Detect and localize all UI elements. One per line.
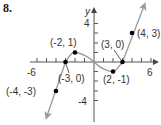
label-neg4-neg3: (-4, -3)	[6, 86, 36, 97]
graph-curve	[47, 6, 144, 116]
x-tick-6: 6	[147, 67, 153, 78]
y-tick-4: 4	[84, 18, 90, 29]
label-neg3-0: (-3, 0)	[58, 73, 85, 84]
point-neg2-1	[73, 50, 78, 55]
y-axis	[94, 10, 98, 122]
point-3-0	[120, 60, 125, 65]
y-axis-label: y	[84, 6, 91, 17]
label-3-0: (3, 0)	[101, 39, 124, 50]
function-graph: y 4 -4 -6 6 (-4, -3) (-3, 0) (-2, 1) (2,…	[0, 0, 161, 125]
point-4-3	[130, 31, 135, 36]
label-2-neg1: (2, -1)	[103, 74, 130, 85]
label-4-3: (4, 3)	[137, 28, 160, 39]
x-tick-neg6: -6	[27, 67, 36, 78]
label-neg2-1: (-2, 1)	[50, 37, 77, 48]
point-neg4-neg3	[54, 89, 59, 94]
point-neg3-0	[63, 60, 68, 65]
y-tick-neg4: -4	[78, 96, 87, 107]
